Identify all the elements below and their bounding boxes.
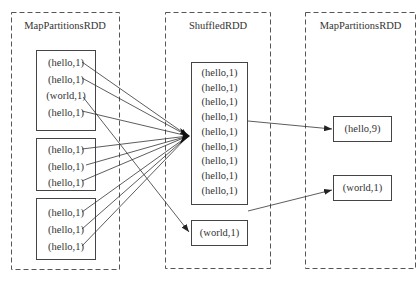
record: (hello,1) [48,55,84,72]
stage-title-right: MapPartitionsRDD [305,20,416,31]
partition-records-shuffled-hello: (hello,1) (hello,1) (hello,1) (hello,1) … [191,66,248,198]
record: (hello,1) [202,169,238,184]
stage-title-middle: ShuffledRDD [165,20,271,31]
record: (hello,1) [48,142,84,159]
record: (hello,1) [48,105,84,122]
record: (hello,1) [202,125,238,140]
record: (hello,1) [48,222,84,239]
record: (hello,1) [202,184,238,199]
partition-records-left-3: (hello,1) (hello,1) (hello,1) [36,205,96,255]
stage-container-right [306,13,416,269]
record: (world,1) [343,180,382,196]
record: (hello,1) [202,81,238,96]
record: (hello,1) [202,140,238,155]
record: (hello,1) [48,159,84,176]
record: (world,1) [200,225,239,241]
partition-records-left-2: (hello,1) (hello,1) (hello,1) [36,142,96,192]
partition-records-result-hello: (hello,9) [333,121,392,137]
record: (hello,1) [48,72,84,89]
record: (hello,9) [345,121,381,137]
record: (hello,1) [48,205,84,222]
record: (hello,1) [202,110,238,125]
partition-records-result-world: (world,1) [333,180,392,196]
record: (hello,1) [202,95,238,110]
partition-records-shuffled-world: (world,1) [191,225,248,241]
convergence-arrowhead [180,128,190,144]
record: (hello,1) [202,66,238,81]
partition-records-left-1: (hello,1) (hello,1) (world,1) (hello,1) [36,55,96,121]
record: (hello,1) [48,239,84,256]
record: (world,1) [46,88,85,105]
stage-title-left: MapPartitionsRDD [11,20,119,31]
record: (hello,1) [48,175,84,192]
record: (hello,1) [202,154,238,169]
